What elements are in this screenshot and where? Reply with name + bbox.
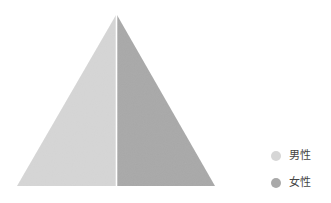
legend-label-female: 女性 (289, 176, 311, 190)
chart-legend: 男性 女性 (271, 149, 311, 203)
legend-label-male: 男性 (289, 149, 311, 163)
pyramid-right-half-female[interactable] (117, 15, 215, 186)
legend-dot-female-icon (271, 178, 281, 188)
pyramid-left-half-male[interactable] (17, 15, 116, 186)
legend-item-male[interactable]: 男性 (271, 149, 311, 163)
legend-item-female[interactable]: 女性 (271, 176, 311, 190)
legend-dot-male-icon (271, 151, 281, 161)
